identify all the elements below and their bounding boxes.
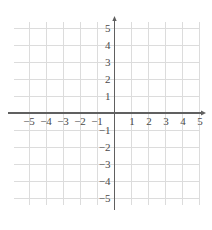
y-tick-label: −4	[99, 175, 111, 187]
x-tick-label: −3	[57, 115, 69, 127]
y-tick-label: 4	[105, 39, 111, 51]
y-tick-label: 2	[105, 73, 111, 85]
x-tick-label: 3	[163, 115, 169, 127]
coordinate-plane-figure: −5−4−3−2−112345 54321−1−2−3−4−5	[0, 0, 212, 230]
y-tick-label: −1	[99, 124, 111, 136]
x-tick-label: −5	[23, 115, 35, 127]
y-tick-label: −2	[99, 141, 111, 153]
x-tick-label: 5	[197, 115, 203, 127]
x-tick-label: 4	[180, 115, 186, 127]
y-tick-label: −5	[99, 192, 111, 204]
x-tick-label: 2	[146, 115, 152, 127]
x-tick-label: 1	[129, 115, 135, 127]
y-tick-label: 3	[105, 56, 111, 68]
y-tick-label: −3	[99, 158, 111, 170]
x-tick-label: −4	[40, 115, 52, 127]
y-tick-label: 1	[105, 90, 111, 102]
y-tick-label: 5	[105, 22, 111, 34]
coordinate-plane-svg: −5−4−3−2−112345 54321−1−2−3−4−5	[0, 0, 212, 230]
x-tick-label: −2	[74, 115, 86, 127]
